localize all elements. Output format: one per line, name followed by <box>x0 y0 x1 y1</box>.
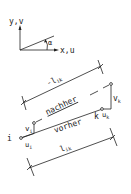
beam-displacement-diagram: y,v x,u α -lik nachher vorher k i vk uk … <box>0 0 131 194</box>
node-i <box>20 137 23 140</box>
svg-text:-lik: -lik <box>45 73 63 88</box>
u-i-label: ui <box>25 141 32 150</box>
svg-text:vorher: vorher <box>53 117 83 135</box>
u-i-line <box>23 134 35 138</box>
u-k-label: uk <box>102 111 109 120</box>
node-k-displaced <box>110 83 113 86</box>
x-axis-label: x,u <box>60 46 75 55</box>
x-axis-arrow-icon <box>54 49 59 52</box>
dimension-bottom <box>27 128 117 176</box>
node-k <box>101 108 104 111</box>
coordinate-system <box>19 25 60 52</box>
v-i-label: vi <box>25 124 33 134</box>
svg-text:nachher: nachher <box>44 94 79 116</box>
v-k-label: vk <box>113 94 121 104</box>
after-label: nachher <box>44 94 79 116</box>
dimension-top-label: -lik <box>45 73 63 88</box>
before-label: vorher <box>53 117 83 135</box>
node-i-label: i <box>7 134 12 143</box>
node-k-label: k <box>94 112 99 121</box>
angle-label: α <box>48 39 52 47</box>
node-i-displaced <box>33 122 36 125</box>
y-axis-label: y,v <box>9 17 24 26</box>
